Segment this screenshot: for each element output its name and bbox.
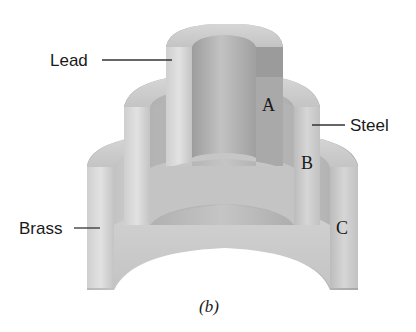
lead-core [192, 35, 256, 158]
lead-left-wall [166, 47, 192, 166]
brass-label: Brass [19, 219, 62, 238]
stepped-cylinder-diagram: Lead Steel Brass A B C (b) [0, 0, 416, 332]
region-c-label: C [336, 218, 348, 238]
region-a-label: A [262, 95, 275, 115]
lead-label: Lead [50, 51, 88, 70]
region-b-label: B [301, 153, 313, 173]
lead-right-wall-shade [256, 47, 283, 77]
steel-left-wall [124, 107, 150, 225]
figure-caption: (b) [199, 297, 219, 316]
steel-label: Steel [350, 116, 389, 135]
